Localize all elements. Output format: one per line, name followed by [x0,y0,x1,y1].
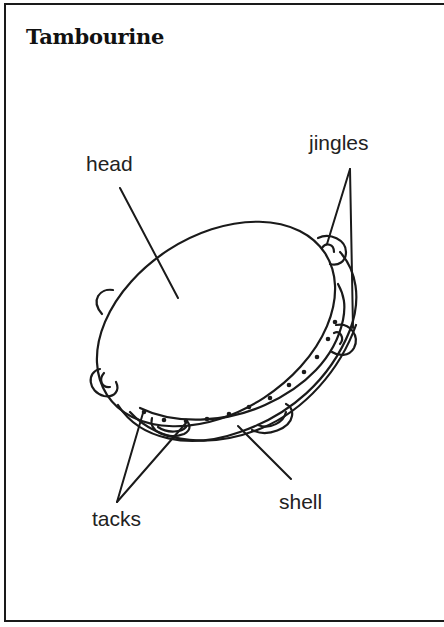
leader-jingles-2 [350,169,353,328]
leader-lines [117,169,353,502]
leader-tacks-2 [117,423,186,502]
head-drum-skin [59,179,373,468]
jingles [91,236,356,436]
tacks-dots [142,320,338,424]
leader-head [120,188,178,298]
leader-jingles-1 [327,169,350,244]
leader-tacks-1 [117,413,143,502]
